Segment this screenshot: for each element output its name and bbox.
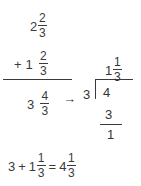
numerator: 1	[37, 152, 46, 165]
whole-part: 1	[26, 58, 33, 71]
numerator: 2	[39, 50, 48, 63]
plus-sign: +	[14, 58, 22, 71]
whole-part: 1	[29, 160, 36, 173]
whole-part: 1	[105, 64, 112, 77]
final-result: 4 1 3	[59, 152, 76, 180]
denominator: 3	[113, 71, 122, 84]
whole-part: 2	[30, 20, 37, 33]
division-divisor: 3	[83, 88, 90, 101]
division-bracket-vertical	[95, 79, 96, 99]
division-subtrahend: 3	[105, 108, 112, 121]
denominator: 3	[67, 167, 76, 180]
right-arrow-icon: →	[63, 92, 76, 105]
numerator: 4	[40, 90, 49, 103]
whole-part: 4	[59, 160, 66, 173]
addition-sum: 3 4 3	[27, 90, 49, 118]
numerator: 1	[67, 152, 76, 165]
fraction: 4 3	[40, 90, 49, 118]
addend-one: 2 2 3	[30, 12, 47, 40]
division-remainder: 1	[107, 128, 114, 141]
division-bracket-overbar	[95, 79, 133, 80]
fraction: 2 3	[39, 50, 48, 78]
final-first-term: 3	[8, 160, 15, 173]
fraction: 1 3	[67, 152, 76, 180]
division-dividend: 4	[103, 86, 110, 99]
mixed-number-addend-two: + 1 2 3	[14, 50, 48, 78]
addition-rule	[3, 79, 72, 80]
equals-sign: =	[49, 160, 57, 173]
denominator: 3	[37, 167, 46, 180]
mixed-number-addend-one: 2 2 3	[30, 12, 47, 40]
numerator: 2	[38, 12, 47, 25]
denominator: 3	[40, 105, 49, 118]
math-worksheet: 2 2 3 + 1 2 3 3 4 3	[0, 0, 141, 186]
division-subtraction-rule	[100, 124, 122, 125]
mixed-number-sum: 3 4 3	[27, 90, 49, 118]
final-plus-sign: +	[18, 160, 26, 173]
denominator: 3	[39, 65, 48, 78]
final-second-term: 1 1 3	[29, 152, 46, 180]
numerator: 1	[113, 56, 122, 69]
whole-part: 3	[27, 98, 34, 111]
fraction: 2 3	[38, 12, 47, 40]
addend-two: + 1 2 3	[14, 50, 48, 78]
fraction: 1 3	[37, 152, 46, 180]
denominator: 3	[38, 27, 47, 40]
final-equation: 3 + 1 1 3 = 4 1 3	[8, 152, 76, 180]
